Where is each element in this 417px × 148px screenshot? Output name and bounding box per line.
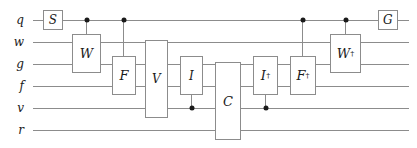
ctrl-q-to-Wdag-dot: [343, 18, 348, 23]
wire-label-r: r: [0, 124, 24, 136]
gate-label-C: C: [223, 95, 233, 108]
gate-Fdag[interactable]: F†: [290, 56, 316, 95]
gate-label-I: I: [189, 70, 194, 82]
wire-label-g: g: [0, 58, 24, 70]
gate-V[interactable]: V: [145, 40, 168, 118]
wire-label-q: q: [0, 14, 24, 26]
ctrl-q-to-F-line: [123, 20, 124, 56]
ctrl-q-to-W-dot: [84, 18, 89, 23]
gate-label-S: S: [49, 14, 57, 26]
gate-C[interactable]: C: [215, 62, 241, 140]
wire-line-q: [33, 20, 409, 21]
gate-label-G: G: [383, 14, 393, 26]
gate-dagger-Wdag: †: [350, 49, 354, 58]
gate-S[interactable]: S: [43, 10, 63, 30]
quantum-circuit-diagram: qwgfvr SWFVICI†F†W†G: [0, 0, 417, 148]
gate-G[interactable]: G: [378, 10, 398, 30]
gate-label-V: V: [152, 73, 161, 85]
ctrl-q-to-Fdag-line: [302, 20, 303, 56]
gate-F[interactable]: F: [112, 56, 136, 95]
gate-label-Wdag: W: [337, 47, 351, 60]
gate-W[interactable]: W: [72, 34, 101, 73]
ctrl-q-to-Fdag-dot: [300, 18, 305, 23]
gate-label-F: F: [119, 69, 128, 82]
gate-Idag[interactable]: I†: [253, 56, 278, 95]
gate-Wdag[interactable]: W†: [330, 34, 361, 73]
wire-label-v: v: [0, 102, 24, 114]
gate-label-W: W: [80, 47, 94, 60]
ctrl-v-to-Idag-dot: [263, 106, 268, 111]
wire-label-f: f: [0, 80, 24, 92]
wire-label-w: w: [0, 36, 24, 48]
gate-label-Fdag: F: [296, 69, 305, 82]
ctrl-v-to-I-dot: [189, 106, 194, 111]
ctrl-q-to-F-dot: [121, 18, 126, 23]
gate-dagger-Idag: †: [266, 71, 270, 80]
gate-I[interactable]: I: [180, 56, 203, 95]
gate-dagger-Fdag: †: [306, 71, 310, 80]
